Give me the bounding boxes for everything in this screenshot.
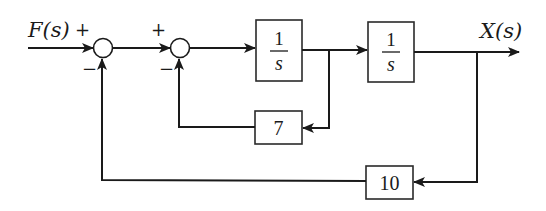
integrator2-denominator: s: [387, 53, 395, 75]
summing-junction-2: [171, 39, 190, 58]
outer-feedback-return-arrow: [102, 59, 366, 181]
sum1-minus-sign: −: [82, 58, 97, 79]
outer-feedback-gain-block: 10: [366, 166, 413, 199]
integrator-block-1: 1 s: [256, 20, 302, 81]
integrator-block-2: 1 s: [368, 22, 414, 82]
sum2-minus-sign: −: [159, 58, 174, 79]
inner-feedback-pickoff: [303, 50, 329, 128]
inner-feedback-return-arrow: [179, 59, 255, 127]
outer-gain-value: 10: [380, 172, 400, 194]
inner-feedback-gain-block: 7: [255, 111, 302, 144]
outer-feedback-pickoff: [414, 52, 477, 182]
input-label: F(s): [27, 18, 70, 42]
output-label: X(s): [478, 19, 522, 43]
summing-junction-1: [94, 39, 113, 58]
integrator1-numerator: 1: [274, 28, 284, 49]
inner-gain-value: 7: [274, 117, 284, 139]
sum1-plus-sign: +: [75, 19, 90, 40]
integrator2-numerator: 1: [386, 29, 396, 50]
integrator1-denominator: s: [275, 52, 283, 74]
sum2-plus-sign: +: [151, 19, 166, 40]
block-diagram: F(s) + − + − 1 s 1 s X(s) 7 10: [0, 0, 546, 211]
